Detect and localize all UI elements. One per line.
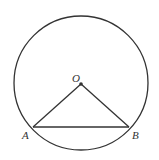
label-b: B [132,129,139,141]
segment-oa [33,84,81,127]
label-o: O [72,72,80,84]
segment-ob [81,84,129,127]
circle-diagram: O A B [0,0,159,160]
label-a: A [21,129,29,141]
